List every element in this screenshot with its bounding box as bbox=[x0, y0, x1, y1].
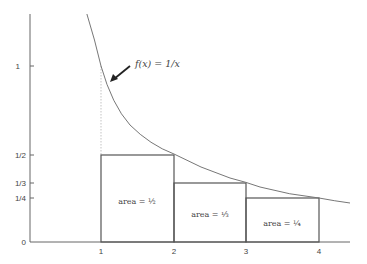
y-tick-label: 1 bbox=[16, 62, 21, 71]
x-tick-label: 2 bbox=[172, 247, 177, 256]
y-tick-label: 1/2 bbox=[15, 151, 27, 160]
area-label-3: area = ¼ bbox=[263, 219, 301, 228]
y-tick-label: 1/4 bbox=[15, 194, 27, 203]
area-label-1: area = ½ bbox=[118, 197, 156, 206]
arrow-icon bbox=[110, 66, 130, 82]
function-curve bbox=[87, 14, 350, 203]
x-tick-label: 4 bbox=[317, 247, 322, 256]
function-label: f(x) = 1/x bbox=[134, 58, 181, 69]
y-tick-label: 0 bbox=[22, 238, 27, 247]
riemann-sum-diagram: 1 1/2 1/3 1/4 0 1 2 3 4 area = ½ area = … bbox=[0, 0, 367, 264]
x-tick-label: 3 bbox=[244, 247, 249, 256]
x-ticks: 1 2 3 4 bbox=[99, 247, 322, 256]
y-ticks: 1 1/2 1/3 1/4 0 bbox=[15, 62, 34, 247]
x-tick-label: 1 bbox=[99, 247, 104, 256]
area-label-2: area = ⅓ bbox=[191, 210, 229, 219]
y-tick-label: 1/3 bbox=[15, 179, 27, 188]
